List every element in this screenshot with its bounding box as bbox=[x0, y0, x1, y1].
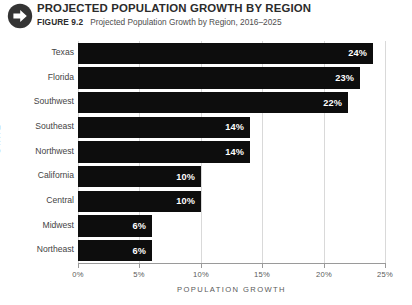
category-label: California bbox=[8, 170, 74, 180]
bar-chart: STATE TexasFloridaSouthwestSoutheastNort… bbox=[0, 36, 412, 305]
x-tick-mark bbox=[262, 264, 263, 268]
figure-caption-text: Projected Population Growth by Region, 2… bbox=[90, 17, 281, 27]
figure-header: PROJECTED POPULATION GROWTH BY REGION FI… bbox=[0, 0, 412, 36]
bar-row[interactable]: 23% bbox=[78, 67, 385, 89]
x-tick-label: 10% bbox=[193, 270, 209, 279]
x-tick-mark bbox=[385, 264, 386, 268]
bar-row[interactable]: 6% bbox=[78, 215, 385, 237]
x-tick-label: 15% bbox=[254, 270, 270, 279]
bar[interactable]: 10% bbox=[78, 166, 201, 188]
bar-value-label: 14% bbox=[220, 122, 244, 132]
y-axis-title: STATE bbox=[0, 124, 2, 154]
bar-value-label: 23% bbox=[330, 73, 354, 83]
bar-row[interactable]: 14% bbox=[78, 141, 385, 163]
bar[interactable]: 14% bbox=[78, 141, 250, 163]
category-label: Midwest bbox=[8, 220, 74, 230]
bar-row[interactable]: 14% bbox=[78, 117, 385, 139]
figure-caption-line: FIGURE 9.2 Projected Population Growth b… bbox=[37, 17, 409, 28]
category-label: Northeast bbox=[8, 244, 74, 254]
category-label: Florida bbox=[8, 72, 74, 82]
bar-row[interactable]: 22% bbox=[78, 92, 385, 114]
bar[interactable]: 10% bbox=[78, 191, 201, 213]
x-axis-line bbox=[78, 263, 386, 264]
bar-row[interactable]: 10% bbox=[78, 166, 385, 188]
bar[interactable]: 6% bbox=[78, 215, 152, 237]
y-axis-tick-labels: TexasFloridaSouthwestSoutheastNorthwestC… bbox=[8, 41, 74, 263]
plot-area: 24%23%22%14%14%10%10%6%6% bbox=[78, 41, 385, 263]
category-label: Southeast bbox=[8, 121, 74, 131]
x-tick-mark bbox=[78, 264, 79, 268]
bar-row[interactable]: 10% bbox=[78, 191, 385, 213]
bar-value-label: 24% bbox=[343, 48, 367, 58]
bar[interactable]: 24% bbox=[78, 43, 373, 65]
x-tick-mark bbox=[324, 264, 325, 268]
bar-value-label: 10% bbox=[171, 172, 195, 182]
category-label: Central bbox=[8, 195, 74, 205]
x-tick-label: 5% bbox=[133, 270, 144, 279]
figure-number: FIGURE 9.2 bbox=[37, 17, 83, 27]
bar-value-label: 10% bbox=[171, 196, 195, 206]
title-block: PROJECTED POPULATION GROWTH BY REGION FI… bbox=[37, 1, 409, 28]
bar[interactable]: 23% bbox=[78, 67, 360, 89]
bar[interactable]: 6% bbox=[78, 240, 152, 262]
bar[interactable]: 14% bbox=[78, 117, 250, 139]
gridline bbox=[385, 41, 386, 263]
bar-value-label: 6% bbox=[122, 221, 146, 231]
page-title: PROJECTED POPULATION GROWTH BY REGION bbox=[37, 1, 409, 15]
bar-value-label: 14% bbox=[220, 147, 244, 157]
category-label: Northwest bbox=[8, 146, 74, 156]
bar-value-label: 6% bbox=[122, 246, 146, 256]
x-tick-label: 0% bbox=[72, 270, 83, 279]
x-tick-label: 25% bbox=[377, 270, 393, 279]
category-label: Texas bbox=[8, 47, 74, 57]
bar-row[interactable]: 6% bbox=[78, 240, 385, 262]
x-tick-label: 20% bbox=[316, 270, 332, 279]
category-label: Southwest bbox=[8, 96, 74, 106]
x-axis-title: POPULATION GROWTH bbox=[78, 285, 385, 294]
arrow-circle-right-icon bbox=[7, 3, 33, 29]
bar[interactable]: 22% bbox=[78, 92, 348, 114]
x-tick-mark bbox=[201, 264, 202, 268]
bar-value-label: 22% bbox=[318, 98, 342, 108]
x-tick-mark bbox=[139, 264, 140, 268]
bar-row[interactable]: 24% bbox=[78, 43, 385, 65]
